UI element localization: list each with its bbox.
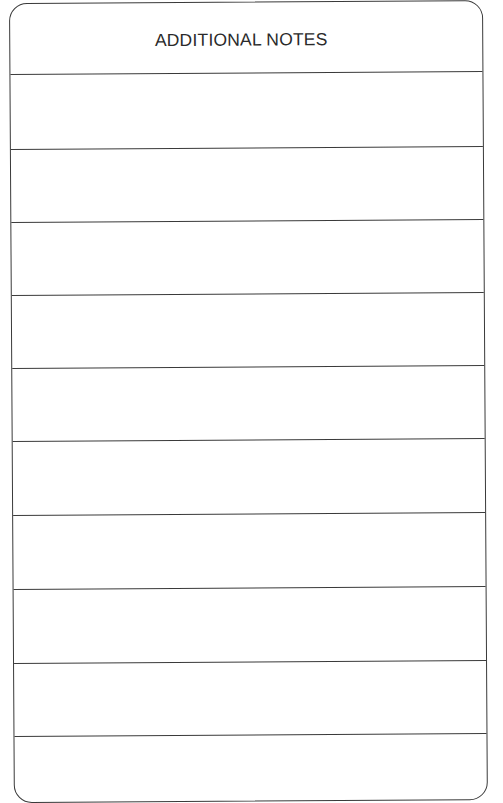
note-line-3[interactable]: [11, 220, 483, 295]
note-line-8[interactable]: [14, 587, 486, 663]
note-line-7[interactable]: [13, 513, 485, 589]
notes-card: ADDITIONAL NOTES: [9, 0, 488, 803]
notes-header: ADDITIONAL NOTES: [10, 1, 482, 74]
note-line-9[interactable]: [14, 661, 486, 736]
note-line-1[interactable]: [10, 72, 482, 149]
note-line-6[interactable]: [13, 439, 485, 515]
note-line-5[interactable]: [12, 366, 484, 441]
page-title: ADDITIONAL NOTES: [155, 29, 328, 51]
note-line-2[interactable]: [11, 147, 483, 222]
note-line-4[interactable]: [12, 293, 484, 368]
note-line-10[interactable]: [14, 734, 486, 801]
